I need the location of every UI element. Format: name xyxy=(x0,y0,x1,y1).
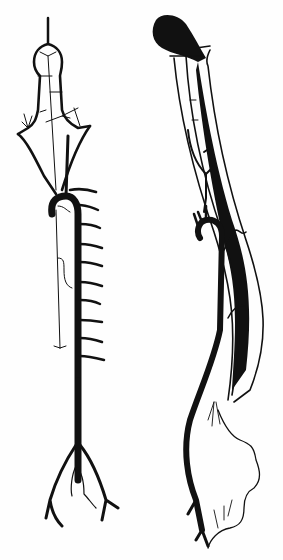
figure-canvas xyxy=(0,0,283,560)
anatomical-drawing xyxy=(0,0,283,560)
left-panel xyxy=(18,18,118,526)
right-panel xyxy=(153,15,264,548)
